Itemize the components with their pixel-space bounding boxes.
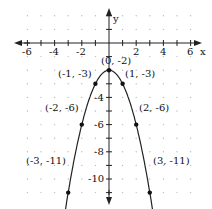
point-label: (0, -2) xyxy=(101,55,131,66)
parabola-graph: x y -6 -4 -2 2 4 6 -4 -6 -8 -10 -12 (0, … xyxy=(0,0,212,209)
x-tick-label: -6 xyxy=(22,46,32,57)
point-label: (2, -6) xyxy=(139,102,169,113)
point-label: (3, -11) xyxy=(153,155,190,166)
data-point xyxy=(134,122,138,126)
point-label: (1, -3) xyxy=(125,68,155,79)
point-label: (-1, -3) xyxy=(58,68,92,79)
point-label: (-3, -11) xyxy=(26,155,66,166)
y-tick-label: -6 xyxy=(94,119,104,130)
x-axis-label: x xyxy=(200,46,206,57)
y-tick-label: -10 xyxy=(88,173,104,184)
y-axis-label: y xyxy=(112,13,119,24)
point-label: (-2, -6) xyxy=(45,102,79,113)
x-tick-label: 6 xyxy=(187,46,193,57)
data-point xyxy=(80,122,84,126)
data-point xyxy=(148,190,152,194)
x-tick-label: -2 xyxy=(76,46,86,57)
x-tick-label: -4 xyxy=(49,46,59,57)
data-point xyxy=(93,82,97,86)
y-tick-label: -8 xyxy=(94,146,104,157)
data-point xyxy=(120,82,124,86)
y-tick-label: -4 xyxy=(94,92,104,103)
x-tick-label: 4 xyxy=(160,46,166,57)
data-point xyxy=(66,190,70,194)
x-tick-label: 2 xyxy=(133,46,139,57)
data-point xyxy=(107,68,111,72)
